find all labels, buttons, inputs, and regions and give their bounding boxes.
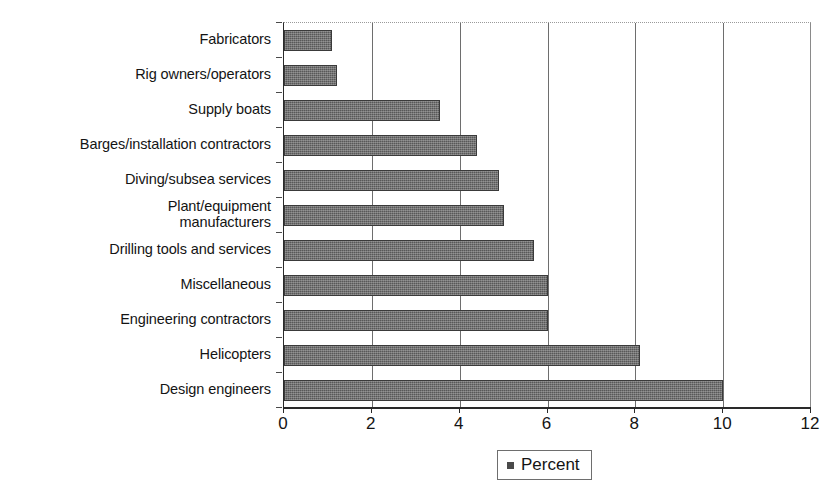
x-tick-label: 10 <box>702 414 742 434</box>
y-tick <box>276 22 282 23</box>
bar-row <box>284 23 811 58</box>
bars-layer <box>284 23 811 408</box>
y-tick <box>276 197 282 198</box>
y-tick <box>276 302 282 303</box>
y-tick <box>276 57 282 58</box>
x-tick <box>722 407 723 413</box>
category-label: Design engineers <box>0 372 278 407</box>
legend-square-marker <box>507 462 514 469</box>
bar-plant-equipment-manufacturers <box>284 205 504 226</box>
y-tick <box>276 92 282 93</box>
x-tick <box>810 407 811 413</box>
bar-row <box>284 93 811 128</box>
bar-engineering-contractors <box>284 310 548 331</box>
category-label: Plant/equipment manufacturers <box>0 197 278 232</box>
x-tick-label: 8 <box>614 414 654 434</box>
plot-area <box>283 22 811 408</box>
bar-fabricators <box>284 30 332 51</box>
y-tick <box>276 372 282 373</box>
bar-row <box>284 128 811 163</box>
y-tick <box>276 337 282 338</box>
category-label: Barges/installation contractors <box>0 127 278 162</box>
bar-row <box>284 373 811 408</box>
x-tick-label: 6 <box>527 414 567 434</box>
bar-drilling-tools-and-services <box>284 240 534 261</box>
bar-row <box>284 303 811 338</box>
x-tick <box>371 407 372 413</box>
bar-design-engineers <box>284 380 723 401</box>
bar-supply-boats <box>284 100 440 121</box>
y-tick <box>276 127 282 128</box>
category-label: Fabricators <box>0 22 278 57</box>
x-tick-label: 2 <box>351 414 391 434</box>
x-tick <box>634 407 635 413</box>
y-tick <box>276 232 282 233</box>
category-label: Engineering contractors <box>0 302 278 337</box>
bar-row <box>284 338 811 373</box>
x-tick-label: 4 <box>439 414 479 434</box>
bar-row <box>284 198 811 233</box>
bar-diving-subsea-services <box>284 170 499 191</box>
category-label: Drilling tools and services <box>0 232 278 267</box>
category-label: Diving/subsea services <box>0 162 278 197</box>
bar-miscellaneous <box>284 275 548 296</box>
bar-row <box>284 58 811 93</box>
x-tick <box>283 407 284 413</box>
category-label: Miscellaneous <box>0 267 278 302</box>
y-tick <box>276 162 282 163</box>
x-tick <box>547 407 548 413</box>
category-label: Rig owners/operators <box>0 57 278 92</box>
chart-legend: Percent <box>497 450 592 480</box>
category-label: Helicopters <box>0 337 278 372</box>
bar-chart: Fabricators Rig owners/operators Supply … <box>0 0 831 489</box>
y-tick <box>276 267 282 268</box>
bar-row <box>284 163 811 198</box>
bar-row <box>284 233 811 268</box>
category-label: Supply boats <box>0 92 278 127</box>
bar-row <box>284 268 811 303</box>
x-tick-label: 12 <box>790 414 830 434</box>
bar-rig-owners-operators <box>284 65 337 86</box>
bar-helicopters <box>284 345 640 366</box>
x-tick <box>459 407 460 413</box>
legend-label: Percent <box>521 455 580 475</box>
bar-barges-installation-contractors <box>284 135 477 156</box>
y-tick <box>276 407 282 408</box>
x-tick-label: 0 <box>263 414 303 434</box>
category-axis: Fabricators Rig owners/operators Supply … <box>0 22 278 407</box>
